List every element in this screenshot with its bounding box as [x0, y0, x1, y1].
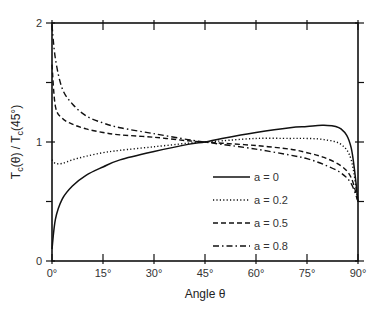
- x-tick-label: 15°: [95, 267, 112, 279]
- series-line-a-0: [52, 125, 358, 249]
- legend-label: a = 0.2: [254, 194, 288, 206]
- y-axis-title: Tc(θ) / Tc(45°): [9, 105, 25, 179]
- series-line-a-0-5: [52, 65, 358, 202]
- legend: a = 0 a = 0.2 a = 0.5 a = 0.8: [213, 171, 288, 252]
- y-tick-label: 0: [36, 255, 42, 267]
- y-tick-label: 1: [36, 136, 42, 148]
- x-axis-title: Angle θ: [185, 287, 226, 301]
- x-tick-label: 45°: [197, 267, 214, 279]
- y-axis-title-end: (45°): [9, 105, 23, 131]
- chart: 0°15°30°45°60°75°90°012 Angle θ Tc(θ) / …: [0, 0, 381, 310]
- legend-label: a = 0.5: [254, 217, 288, 229]
- tick-labels: 0°15°30°45°60°75°90°012: [36, 17, 366, 279]
- y-tick-label: 2: [36, 17, 42, 29]
- svg-text:Tc(θ) / Tc(45°): Tc(θ) / Tc(45°): [9, 105, 25, 179]
- x-tick-label: 90°: [350, 267, 367, 279]
- series-line-a-0-8: [52, 25, 358, 201]
- legend-label: a = 0.8: [254, 240, 288, 252]
- x-tick-label: 60°: [248, 267, 265, 279]
- x-tick-label: 0°: [47, 267, 58, 279]
- y-axis-title-mid: (θ) / T: [9, 135, 23, 167]
- legend-label: a = 0: [254, 171, 279, 183]
- x-tick-label: 75°: [299, 267, 316, 279]
- x-tick-label: 30°: [146, 267, 163, 279]
- plot-lines: [52, 25, 358, 249]
